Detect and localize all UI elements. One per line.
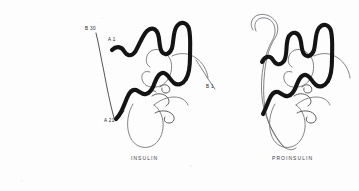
proinsulin-hook-loop-lower <box>297 111 316 123</box>
insulin-lower-lobe-outline <box>128 104 164 147</box>
b30-leader-line <box>96 33 114 118</box>
proinsulin-lower-lobe-outline <box>270 104 306 147</box>
paper-speck <box>190 165 191 166</box>
insulin-right-envelope <box>154 97 188 105</box>
proinsulin-b-chain-upper <box>262 25 332 81</box>
proinsulin-hook-loop-upper <box>302 85 312 93</box>
chain-label-b1: B 1 <box>206 85 214 90</box>
caption-proinsulin: PROINSULIN <box>272 156 313 161</box>
insulin-hook-loop-upper <box>160 85 170 93</box>
proinsulin-panel-graphics <box>251 14 350 149</box>
paper-speck <box>21 180 22 181</box>
chain-label-b30: B 30 <box>85 27 96 32</box>
proinsulin-c-peptide-tail <box>283 146 296 150</box>
insulin-hook-loop-lower <box>155 111 174 123</box>
figure-root: B 30 A 1 A 21 B 1 INSULIN PROINSULIN <box>0 0 359 191</box>
proinsulin-c-peptide-loop <box>251 14 283 146</box>
chain-label-a1: A 1 <box>108 38 116 43</box>
chain-label-a21: A 21 <box>104 119 115 124</box>
caption-insulin: INSULIN <box>131 156 158 161</box>
molecular-diagram-canvas <box>0 0 359 191</box>
insulin-b-chain-lower <box>116 73 186 119</box>
proinsulin-right-envelope <box>296 97 330 105</box>
paper-speck <box>101 17 102 18</box>
